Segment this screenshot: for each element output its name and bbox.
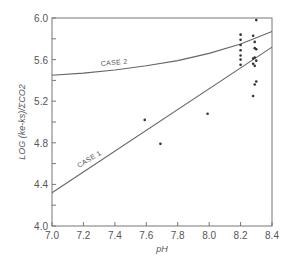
plot-border	[52, 18, 272, 226]
data-point	[255, 19, 258, 22]
data-point	[206, 112, 209, 115]
data-point	[253, 65, 256, 68]
x-tick-label: 8.2	[234, 230, 248, 241]
chart: 7.07.27.47.67.88.08.28.44.04.44.85.25.66…	[0, 0, 293, 263]
case-2-label: CASE 2	[100, 58, 127, 67]
data-point	[255, 80, 258, 83]
data-point	[255, 48, 258, 51]
axis-ticks: 7.07.27.47.67.88.08.28.44.04.44.85.25.66…	[34, 13, 279, 241]
data-point	[143, 119, 146, 122]
x-tick-label: 7.6	[139, 230, 153, 241]
plot-frame	[52, 18, 272, 226]
model-curves	[52, 32, 272, 193]
y-axis-title: LOG (ke-ks)/ΣCO2	[17, 84, 27, 159]
case-1-line	[52, 47, 272, 193]
y-tick-label: 5.2	[34, 96, 48, 107]
data-point	[253, 83, 256, 86]
data-point	[239, 39, 242, 42]
data-point	[252, 57, 255, 60]
x-tick-label: 8.0	[202, 230, 216, 241]
x-tick-label: 7.2	[76, 230, 90, 241]
data-point	[239, 33, 242, 36]
x-axis-title: pH	[155, 244, 168, 254]
y-tick-label: 4.8	[34, 138, 48, 149]
data-point	[253, 41, 256, 44]
data-point	[252, 34, 255, 37]
y-tick-label: 4.0	[34, 221, 48, 232]
x-tick-label: 8.4	[265, 230, 279, 241]
y-tick-label: 6.0	[34, 13, 48, 24]
data-point	[239, 58, 242, 61]
data-point	[252, 95, 255, 98]
data-point	[239, 49, 242, 52]
data-point	[255, 59, 258, 62]
y-tick-label: 4.4	[34, 179, 48, 190]
data-points	[143, 19, 257, 145]
y-tick-label: 5.6	[34, 55, 48, 66]
x-tick-label: 7.4	[108, 230, 122, 241]
data-point	[252, 62, 255, 65]
x-tick-label: 7.8	[171, 230, 185, 241]
data-point	[239, 44, 242, 47]
case-1-label: CASE 1	[76, 149, 102, 169]
data-point	[239, 54, 242, 57]
data-point	[159, 143, 162, 146]
data-point	[239, 64, 242, 67]
